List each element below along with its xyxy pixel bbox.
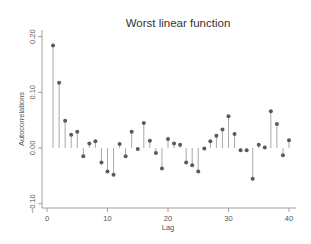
autocorrelation-plot: Worst linear function −0.100.000.100.20 …: [0, 0, 311, 244]
data-point-marker: [190, 163, 194, 167]
data-point-marker: [275, 122, 279, 126]
data-point-marker: [87, 142, 91, 146]
data-point-marker: [142, 121, 146, 125]
data-point-marker: [220, 128, 224, 132]
data-point-marker: [251, 177, 255, 181]
data-point-marker: [178, 143, 182, 147]
data-point-marker: [202, 147, 206, 151]
chart-title: Worst linear function: [126, 17, 231, 29]
data-point-marker: [184, 160, 188, 164]
data-point-marker: [214, 134, 218, 138]
data-point-marker: [160, 167, 164, 171]
y-tick-label: 0.10: [28, 85, 37, 100]
y-tick-label: 0.00: [28, 141, 37, 156]
autocorrelation-series: [51, 44, 291, 181]
data-point-marker: [233, 132, 237, 136]
y-tick-label: 0.20: [28, 29, 37, 44]
data-point-marker: [106, 169, 110, 173]
data-point-marker: [287, 138, 291, 142]
chart-container: Worst linear function −0.100.000.100.20 …: [0, 0, 311, 244]
data-point-marker: [208, 139, 212, 143]
data-point-marker: [69, 133, 73, 137]
data-point-marker: [51, 44, 55, 48]
data-point-marker: [81, 154, 85, 158]
data-point-marker: [118, 142, 122, 146]
data-point-marker: [99, 160, 103, 164]
data-point-marker: [281, 153, 285, 157]
data-point-marker: [93, 139, 97, 143]
x-tick-label: 20: [164, 214, 172, 223]
data-point-marker: [227, 114, 231, 118]
x-tick-label: 0: [45, 214, 49, 223]
data-point-marker: [136, 147, 140, 151]
x-tick-label: 30: [224, 214, 232, 223]
y-tick-label: −0.10: [28, 194, 37, 213]
data-point-marker: [57, 81, 61, 85]
y-axis-label: Autocorrelations: [17, 92, 26, 146]
data-point-marker: [124, 154, 128, 158]
data-point-marker: [154, 151, 158, 155]
x-tick-label: 10: [103, 214, 111, 223]
data-point-marker: [148, 139, 152, 143]
data-point-marker: [130, 130, 134, 134]
x-axis-label: Lag: [162, 223, 175, 232]
data-point-marker: [263, 145, 267, 149]
data-point-marker: [166, 137, 170, 141]
data-point-marker: [196, 169, 200, 173]
x-tick-label: 40: [285, 214, 293, 223]
y-axis: −0.100.000.100.20: [28, 29, 42, 213]
data-point-marker: [245, 148, 249, 152]
data-point-marker: [63, 119, 67, 123]
data-point-marker: [269, 109, 273, 113]
data-point-marker: [239, 148, 243, 152]
x-axis: 010203040: [42, 208, 296, 223]
data-point-marker: [257, 143, 261, 147]
data-point-marker: [172, 142, 176, 146]
data-point-marker: [75, 130, 79, 134]
data-point-marker: [112, 173, 116, 177]
